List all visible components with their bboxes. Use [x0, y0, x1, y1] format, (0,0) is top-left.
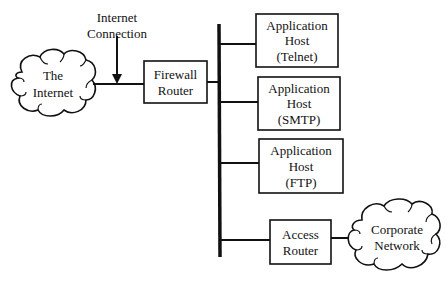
firewall-label-1: Firewall — [154, 67, 198, 82]
telnet-label-2: Host — [285, 33, 310, 48]
smtp-label-3: (SMTP) — [278, 112, 321, 127]
corporate-label-1: Corporate — [371, 222, 423, 237]
firewall-label-2: Router — [158, 83, 194, 98]
ftp-label-1: Application — [270, 143, 332, 158]
network-bus — [219, 24, 220, 257]
internet-label-1: The — [43, 68, 63, 83]
network-diagram: The Internet Internet Connection Firewal… — [0, 0, 447, 285]
access-label-2: Router — [283, 243, 319, 258]
connection-label-1: Internet — [97, 10, 138, 25]
internet-label-2: Internet — [33, 85, 74, 100]
access-router-node: Access Router — [270, 220, 331, 264]
smtp-host-node: Application Host (SMTP) — [258, 77, 340, 130]
smtp-label-1: Application — [268, 81, 330, 96]
telnet-label-1: Application — [266, 18, 328, 33]
arrow-down-icon — [112, 74, 122, 84]
corporate-label-2: Network — [374, 238, 420, 253]
ftp-label-2: Host — [289, 159, 314, 174]
telnet-host-node: Application Host (Telnet) — [256, 14, 338, 67]
smtp-label-2: Host — [287, 96, 312, 111]
telnet-label-3: (Telnet) — [277, 49, 318, 64]
internet-cloud: The Internet — [11, 49, 95, 116]
ftp-host-node: Application Host (FTP) — [259, 139, 343, 193]
connection-label-2: Connection — [87, 26, 147, 41]
corporate-network-cloud: Corporate Network — [348, 199, 440, 270]
ftp-label-3: (FTP) — [285, 175, 316, 190]
access-label-1: Access — [282, 227, 319, 242]
firewall-router-node: Firewall Router — [144, 61, 207, 103]
